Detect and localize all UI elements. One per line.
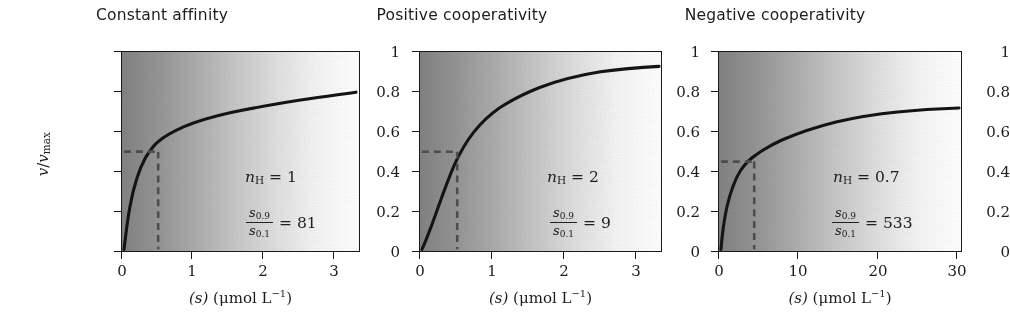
y-tick-mark [412, 171, 419, 172]
x-axis-units-close: ) [886, 289, 892, 307]
x-axis-title-s: (s) [189, 289, 208, 307]
y-axis-title-v2: v [34, 154, 52, 162]
s-ratio-value: = 533 [865, 214, 913, 232]
x-tick-label: 1 [487, 262, 497, 280]
x-axis-units-open: (μmol L [808, 289, 871, 307]
x-tick-label: 10 [788, 262, 807, 280]
x-tick-mark [797, 252, 798, 259]
x-axis-units-exponent: −1 [271, 288, 286, 299]
x-tick-mark [491, 252, 492, 259]
y-tick-mark [711, 211, 718, 212]
x-tick-label: 1 [187, 262, 197, 280]
x-axis-title-s: (s) [489, 289, 508, 307]
x-tick-mark [563, 252, 564, 259]
hill-coefficient-symbol: n [833, 168, 843, 186]
hill-coefficient-value: = 0.7 [857, 168, 900, 186]
y-axis-title: v/vmax [34, 109, 52, 199]
s-ratio-denominator: s0.1 [550, 224, 577, 239]
x-tick-mark [718, 252, 719, 259]
x-axis-units-exponent: −1 [571, 288, 586, 299]
y-tick-mark [114, 251, 121, 252]
x-axis-units-exponent: −1 [871, 288, 886, 299]
y-tick-mark [412, 91, 419, 92]
y-axis-title-v: v [34, 168, 52, 176]
y-tick-mark [412, 51, 419, 52]
s-ratio-fraction: s0.9 s0.1 [246, 206, 273, 239]
hill-coefficient-value: = 2 [571, 168, 599, 186]
y-tick-mark [711, 131, 718, 132]
hill-coefficient-symbol: n [245, 168, 255, 186]
hill-coefficient-value: = 1 [269, 168, 297, 186]
s-ratio-denominator-subscript: 0.1 [842, 229, 856, 239]
y-axis-title-slash: / [34, 163, 52, 168]
hill-coefficient-annotation: nH = 1 [245, 168, 297, 186]
s-ratio-numerator-symbol: s [835, 205, 842, 220]
x-axis-units-open: (μmol L [508, 289, 571, 307]
y-tick-label: 0 [909, 243, 1010, 261]
y-tick-mark [412, 131, 419, 132]
y-tick-mark [114, 171, 121, 172]
x-tick-mark [191, 252, 192, 259]
y-tick-label: 0.8 [909, 83, 1010, 101]
s-ratio-numerator-subscript: 0.9 [560, 211, 574, 221]
panel-title: Negative cooperativity [570, 6, 980, 24]
x-axis-units-close: ) [286, 289, 292, 307]
y-tick-mark [412, 211, 419, 212]
s-ratio-numerator: s0.9 [832, 206, 859, 221]
hill-coefficient-symbol: n [547, 168, 557, 186]
s-ratio-denominator-symbol: s [835, 223, 842, 238]
x-tick-label: 2 [559, 262, 569, 280]
s-ratio-denominator: s0.1 [246, 224, 273, 239]
x-tick-mark [877, 252, 878, 259]
s-ratio-numerator-symbol: s [553, 205, 560, 220]
y-tick-mark [711, 51, 718, 52]
s-ratio-denominator-subscript: 0.1 [256, 229, 270, 239]
y-tick-mark [711, 91, 718, 92]
x-tick-label: 0 [117, 262, 127, 280]
y-tick-label: 0.6 [909, 123, 1010, 141]
s-ratio-fraction: s0.9 s0.1 [550, 206, 577, 239]
y-tick-label: 1 [909, 43, 1010, 61]
y-tick-label: 0.2 [909, 203, 1010, 221]
x-axis-title: (s) (μmol L−1) [718, 288, 962, 307]
y-tick-mark [114, 131, 121, 132]
s-ratio-denominator-subscript: 0.1 [560, 229, 574, 239]
x-axis-units-open: (μmol L [208, 289, 271, 307]
x-tick-label: 20 [868, 262, 887, 280]
s-ratio-numerator: s0.9 [550, 206, 577, 221]
s-ratio-denominator: s0.1 [832, 224, 859, 239]
hill-coefficient-annotation: nH = 0.7 [833, 168, 900, 186]
x-axis-title-s: (s) [788, 289, 807, 307]
x-tick-mark [419, 252, 420, 259]
x-tick-mark [121, 252, 122, 259]
y-tick-mark [412, 251, 419, 252]
s-ratio-denominator-symbol: s [553, 223, 560, 238]
y-tick-label: 0.4 [909, 163, 1010, 181]
hill-coefficient-subscript: H [255, 174, 264, 186]
s-ratio-annotation: s0.9 s0.1 = 533 [832, 202, 913, 239]
x-tick-label: 0 [714, 262, 724, 280]
x-tick-label: 30 [947, 262, 966, 280]
x-tick-mark [956, 252, 957, 259]
y-tick-mark [711, 171, 718, 172]
x-tick-mark [262, 252, 263, 259]
y-axis-title-sub: max [40, 132, 52, 154]
s-ratio-numerator-subscript: 0.9 [842, 211, 856, 221]
hill-coefficient-subscript: H [557, 174, 566, 186]
s-ratio-numerator-subscript: 0.9 [256, 211, 270, 221]
s-ratio-denominator-symbol: s [249, 223, 256, 238]
s-ratio-expression: s0.9 s0.1 = 533 [832, 206, 913, 239]
y-tick-mark [114, 211, 121, 212]
figure-container: Constant affinity v/vmax 1 0.8 0.6 0.4 0… [0, 0, 1010, 330]
y-tick-mark [114, 91, 121, 92]
x-tick-label: 0 [415, 262, 425, 280]
y-tick-mark [114, 51, 121, 52]
hill-coefficient-subscript: H [843, 174, 852, 186]
s-ratio-fraction: s0.9 s0.1 [832, 206, 859, 239]
x-tick-label: 2 [258, 262, 268, 280]
s-ratio-numerator-symbol: s [249, 205, 256, 220]
y-tick-mark [711, 251, 718, 252]
s-ratio-numerator: s0.9 [246, 206, 273, 221]
hill-coefficient-annotation: nH = 2 [547, 168, 599, 186]
panel-negative-cooperativity: Negative cooperativity 1 0.8 0.6 0.4 0.2… [600, 0, 1010, 330]
